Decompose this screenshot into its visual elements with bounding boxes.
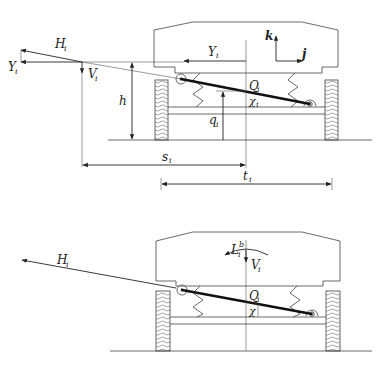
label-L-sub: i — [238, 250, 241, 259]
label-L-sup: b — [239, 240, 244, 249]
vehicle-body-lower — [156, 232, 340, 286]
label-q-sub: i — [216, 120, 219, 129]
H-arrow-lower — [22, 260, 176, 288]
label-s: s — [162, 150, 168, 164]
suspension-diagram: Y i k j Q i χ i q i H i Y i V i h s — [0, 0, 389, 366]
label-s-sub: i — [169, 156, 172, 165]
label-chi-lower: χ — [248, 305, 257, 318]
label-t-sub: i — [249, 175, 252, 184]
label-Y-body-sub: i — [216, 51, 219, 60]
label-k: k — [265, 29, 273, 43]
panhard-bar — [181, 79, 310, 104]
left-wheel — [155, 80, 168, 140]
top-panel: Y i k j Q i χ i q i H i Y i V i h s — [8, 22, 372, 190]
right-wheel-lower — [326, 291, 340, 351]
right-wheel — [325, 80, 338, 140]
label-j: j — [300, 47, 307, 61]
left-spring — [193, 73, 203, 107]
label-Y-left-sub: i — [15, 67, 18, 76]
label-chi-sub: i — [256, 100, 259, 109]
bottom-panel: H i L i b V i Q i χ — [22, 232, 372, 351]
label-t: t — [243, 169, 248, 183]
left-spring-lower — [193, 286, 203, 317]
label-V-left-sub: i — [95, 74, 98, 83]
panhard-bar-lower — [182, 290, 312, 314]
label-h: h — [119, 94, 127, 108]
H-arrow-top — [21, 50, 82, 62]
label-H-lower-sub: i — [66, 260, 69, 269]
label-H-top-sub: i — [64, 44, 67, 53]
label-Q-lower-sub: i — [257, 295, 260, 304]
left-wheel-lower — [156, 291, 170, 351]
label-Q-sub: i — [257, 85, 260, 94]
label-V-lower-sub: i — [258, 265, 261, 274]
